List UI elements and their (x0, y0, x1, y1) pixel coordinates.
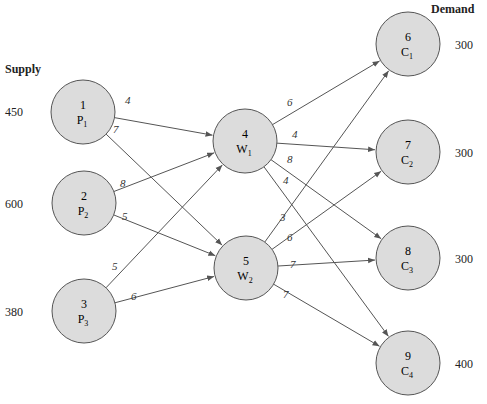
node-number: 6 (405, 30, 411, 44)
node-c2: 7C2 (376, 120, 440, 184)
edge-cost-label: 5 (112, 260, 118, 272)
edge-4-7 (277, 143, 375, 150)
node-p2: 2P2 (52, 171, 116, 235)
node-p1: 1P1 (51, 80, 115, 144)
edge-4-6 (272, 61, 379, 125)
node-circle (52, 279, 116, 343)
node-circle (376, 12, 440, 76)
edge-2-5 (114, 215, 216, 256)
edge-cost-label: 4 (292, 128, 298, 140)
node-number: 5 (243, 254, 249, 268)
edge-cost-label: 5 (122, 210, 128, 222)
edge-3-5 (115, 276, 214, 302)
edge-4-9 (264, 167, 389, 337)
edge-2-4 (114, 153, 214, 192)
node-number: 3 (81, 297, 87, 311)
edge-cost-label: 6 (287, 96, 293, 108)
node-c3: 8C3 (376, 226, 440, 290)
demand-value: 400 (455, 357, 473, 372)
demand-value: 300 (455, 38, 473, 53)
node-circle (376, 226, 440, 290)
edge-cost-label: 8 (287, 153, 293, 165)
node-number: 4 (242, 127, 248, 141)
node-circle (52, 171, 116, 235)
node-number: 8 (405, 244, 411, 258)
edge-cost-label: 4 (283, 174, 289, 186)
edge-1-4 (114, 118, 212, 136)
edge-cost-label: 3 (279, 211, 286, 223)
node-c1: 6C1 (376, 12, 440, 76)
node-circle (214, 236, 278, 300)
supply-header: Supply (5, 62, 41, 77)
edge-5-9 (274, 284, 380, 346)
demand-header: Demand (431, 2, 474, 17)
edge-1-5 (106, 134, 222, 245)
edge-cost-label: 8 (120, 177, 126, 189)
supply-value: 600 (5, 197, 23, 212)
edge-cost-label: 6 (131, 290, 137, 302)
edge-cost-label: 4 (125, 94, 131, 106)
node-number: 7 (405, 138, 411, 152)
demand-value: 300 (455, 252, 473, 267)
edge-cost-label: 7 (113, 123, 119, 135)
edges-layer: 47855664843677 (106, 61, 389, 346)
supply-value: 450 (5, 105, 23, 120)
network-diagram: 47855664843677 1P12P23P34W15W26C17C28C39… (0, 0, 487, 404)
node-circle (376, 331, 440, 395)
node-number: 2 (81, 189, 87, 203)
demand-value: 300 (455, 146, 473, 161)
node-circle (51, 80, 115, 144)
node-number: 9 (405, 349, 411, 363)
node-number: 1 (80, 98, 86, 112)
node-circle (376, 120, 440, 184)
node-w2: 5W2 (214, 236, 278, 300)
edge-cost-label: 7 (283, 288, 289, 300)
node-w1: 4W1 (213, 109, 277, 173)
nodes-layer: 1P12P23P34W15W26C17C28C39C4 (51, 12, 440, 395)
edge-cost-label: 7 (290, 258, 296, 270)
node-circle (213, 109, 277, 173)
node-c4: 9C4 (376, 331, 440, 395)
supply-value: 380 (5, 305, 23, 320)
node-p3: 3P3 (52, 279, 116, 343)
edge-cost-label: 6 (287, 231, 293, 243)
